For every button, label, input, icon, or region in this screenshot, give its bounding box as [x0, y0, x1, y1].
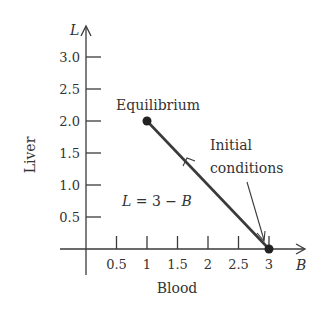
- y-tick-label: 3.0: [59, 50, 80, 65]
- y-axis-symbol: L: [69, 22, 79, 38]
- x-tick-label: 0.5: [106, 257, 127, 272]
- axes: [60, 26, 305, 275]
- y-ticks: [86, 57, 101, 217]
- x-tick-label: 2.5: [228, 257, 249, 272]
- chart-canvas: 0.5 1.0 1.5 2.0 2.5 3.0 0.5 1 1.5 2 2.5 …: [0, 0, 328, 327]
- y-tick-label: 2.5: [59, 82, 80, 97]
- x-tick-label: 3: [265, 257, 273, 272]
- initial-pointer-line: [247, 182, 264, 240]
- equilibrium-label: Equilibrium: [116, 97, 200, 113]
- y-tick-label: 1.5: [59, 146, 80, 161]
- x-ticks: [117, 236, 270, 249]
- initial-conditions-label-line1: Initial: [210, 137, 252, 153]
- initial-conditions-point: [265, 245, 274, 254]
- x-axis-symbol: B: [295, 257, 306, 273]
- x-tick-label: 2: [204, 257, 212, 272]
- x-axis-title: Blood: [157, 280, 198, 296]
- y-tick-label: 2.0: [59, 114, 80, 129]
- y-tick-labels: 0.5 1.0 1.5 2.0 2.5 3.0: [59, 50, 80, 225]
- y-axis-title: Liver: [22, 136, 38, 173]
- y-tick-label: 1.0: [59, 178, 80, 193]
- equilibrium-point: [143, 117, 152, 126]
- x-tick-label: 1: [143, 257, 151, 272]
- equation-label: L = 3 − B: [121, 193, 192, 209]
- y-tick-label: 0.5: [59, 210, 80, 225]
- x-tick-labels: 0.5 1 1.5 2 2.5 3: [106, 257, 273, 272]
- x-tick-label: 1.5: [167, 257, 188, 272]
- initial-conditions-label-line2: conditions: [210, 160, 283, 176]
